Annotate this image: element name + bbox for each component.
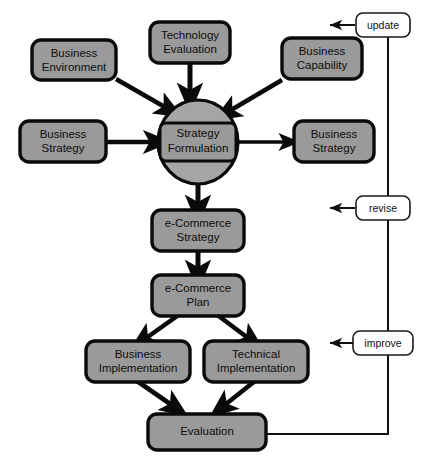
node-business-strategy-left[interactable]: Business Strategy — [20, 121, 106, 162]
node-technology-evaluation[interactable]: Technology Evaluation — [150, 22, 230, 63]
node-business-strategy-right[interactable]: Business Strategy — [294, 121, 374, 162]
edge-plan-to-technical-implementation — [216, 314, 252, 341]
feedback-label-update[interactable]: update — [356, 13, 410, 37]
feedback-label-revise[interactable]: revise — [356, 196, 410, 220]
business-environment-shape — [32, 40, 116, 80]
business-capability-label-line2: Capability — [297, 59, 348, 71]
node-technical-implementation[interactable]: Technical Implementation — [204, 341, 308, 382]
evaluation-label: Evaluation — [180, 425, 234, 437]
ecommerce-plan-label-line2: Plan — [186, 296, 209, 308]
business-environment-label-line1: Business — [51, 47, 98, 59]
ecommerce-strategy-label-line2: Strategy — [177, 231, 220, 243]
edge-business-capability-to-strategy — [226, 80, 282, 113]
business-capability-label-line1: Business — [299, 45, 346, 57]
revise-label: revise — [369, 202, 397, 214]
node-business-implementation[interactable]: Business Implementation — [86, 341, 190, 382]
business-environment-label-line2: Environment — [42, 61, 107, 73]
edge-technical-implementation-to-evaluation — [221, 381, 255, 408]
business-implementation-label-line1: Business — [115, 348, 162, 360]
business-strategy-right-label-line2: Strategy — [313, 142, 356, 154]
node-ecommerce-strategy[interactable]: e-Commerce Strategy — [152, 210, 244, 251]
update-label: update — [367, 19, 399, 31]
business-strategy-left-label-line1: Business — [40, 128, 87, 140]
business-implementation-label-line2: Implementation — [99, 362, 178, 374]
business-strategy-right-label-line1: Business — [311, 128, 358, 140]
edge-plan-to-business-implementation — [142, 314, 180, 341]
node-evaluation[interactable]: Evaluation — [148, 414, 266, 450]
strategy-formulation-label-line1: Strategy — [177, 127, 220, 139]
strategy-formulation-label-line2: Formulation — [168, 142, 229, 154]
edge-business-implementation-to-evaluation — [137, 381, 176, 408]
technical-implementation-label-line2: Implementation — [217, 362, 296, 374]
node-strategy-formulation[interactable]: Strategy Formulation — [158, 100, 238, 184]
technology-evaluation-label-line1: Technology — [161, 29, 219, 41]
edge-business-environment-to-strategy — [116, 79, 170, 110]
improve-label: improve — [364, 337, 402, 349]
technical-implementation-label-line1: Technical — [232, 348, 280, 360]
technology-evaluation-label-line2: Evaluation — [163, 43, 217, 55]
node-business-capability[interactable]: Business Capability — [282, 38, 362, 79]
feedback-label-improve[interactable]: improve — [353, 331, 413, 355]
business-strategy-left-label-line2: Strategy — [42, 142, 85, 154]
node-business-environment[interactable]: Business Environment — [32, 40, 116, 80]
ecommerce-strategy-label-line1: e-Commerce — [165, 217, 231, 229]
diagram-canvas: Business Environment Technology Evaluati… — [0, 0, 426, 465]
node-ecommerce-plan[interactable]: e-Commerce Plan — [152, 275, 244, 316]
ecommerce-plan-label-line1: e-Commerce — [165, 282, 231, 294]
